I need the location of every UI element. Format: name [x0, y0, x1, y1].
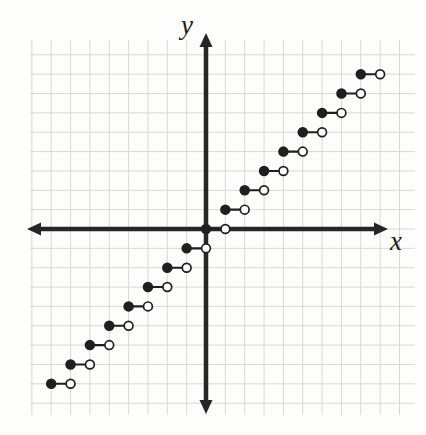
open-endpoint-circle: [105, 341, 114, 350]
y-axis-arrow-down: [200, 400, 213, 414]
step-segment: [86, 341, 114, 350]
open-endpoint-circle: [221, 225, 230, 234]
step-segment: [66, 360, 94, 369]
step-segment: [240, 186, 268, 195]
open-endpoint-circle: [163, 283, 172, 292]
x-axis-arrow-left: [27, 223, 41, 236]
x-axis-arrow-right: [374, 223, 388, 236]
step-segment: [144, 283, 172, 292]
open-endpoint-circle: [66, 379, 75, 388]
y-axis-arrow-up: [200, 33, 213, 47]
open-endpoint-circle: [298, 147, 307, 156]
open-endpoint-circle: [356, 89, 365, 98]
open-endpoint-circle: [318, 128, 327, 137]
open-endpoint-circle: [260, 186, 269, 195]
graph-canvas: y x: [0, 0, 426, 435]
step-segment: [298, 128, 326, 137]
open-endpoint-circle: [86, 360, 95, 369]
closed-endpoint-dot: [124, 302, 133, 311]
closed-endpoint-dot: [356, 70, 365, 79]
step-segment: [318, 109, 346, 118]
open-endpoint-circle: [376, 70, 385, 79]
step-segment: [182, 244, 210, 253]
closed-endpoint-dot: [163, 263, 172, 272]
open-endpoint-circle: [124, 321, 133, 330]
closed-endpoint-dot: [47, 379, 56, 388]
step-segment: [279, 147, 307, 156]
open-endpoint-circle: [240, 205, 249, 214]
open-endpoint-circle: [182, 263, 191, 272]
open-endpoint-circle: [144, 302, 153, 311]
y-axis-label: y: [181, 12, 193, 39]
closed-endpoint-dot: [221, 205, 230, 214]
closed-endpoint-dot: [279, 147, 288, 156]
step-segment: [221, 205, 249, 214]
step-segment: [105, 321, 133, 330]
step-segment: [47, 379, 75, 388]
closed-endpoint-dot: [337, 89, 346, 98]
step-segment: [124, 302, 152, 311]
closed-endpoint-dot: [318, 109, 327, 118]
step-segment: [163, 263, 191, 272]
closed-endpoint-dot: [182, 244, 191, 253]
step-segment: [356, 70, 384, 79]
closed-endpoint-dot: [66, 360, 75, 369]
closed-endpoint-dot: [260, 167, 269, 176]
closed-endpoint-dot: [144, 283, 153, 292]
step-segment: [260, 167, 288, 176]
closed-endpoint-dot: [240, 186, 249, 195]
closed-endpoint-dot: [105, 321, 114, 330]
axes: [27, 33, 388, 414]
open-endpoint-circle: [279, 167, 288, 176]
step-segment: [202, 225, 230, 234]
open-endpoint-circle: [202, 244, 211, 253]
step-segment: [337, 89, 365, 98]
open-endpoint-circle: [337, 109, 346, 118]
x-axis-label: x: [390, 228, 402, 255]
closed-endpoint-dot: [298, 128, 307, 137]
step-function-plot: [0, 0, 426, 435]
closed-endpoint-dot: [86, 341, 95, 350]
closed-endpoint-dot: [202, 225, 211, 234]
